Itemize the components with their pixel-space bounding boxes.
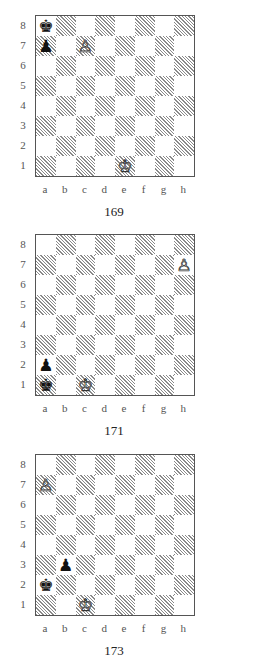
file-label: h — [173, 183, 193, 195]
black-king-icon: ♚ — [38, 18, 53, 35]
rank-labels: 87654321 — [16, 454, 30, 614]
square-d2 — [95, 575, 115, 595]
square-g8 — [155, 235, 175, 255]
rank-label: 1 — [16, 155, 30, 175]
square-a7: ♟ — [36, 36, 56, 56]
square-a3 — [36, 335, 56, 355]
square-f8 — [135, 235, 155, 255]
rank-label: 1 — [16, 374, 30, 394]
square-c8 — [76, 16, 96, 36]
square-a8 — [36, 235, 56, 255]
square-g8 — [155, 16, 175, 36]
square-h6 — [174, 495, 194, 515]
rank-label: 6 — [16, 494, 30, 514]
file-label: h — [173, 622, 193, 634]
diagram-169: 87654321 ♚♟♙♔ abcdefgh 169 — [0, 15, 268, 235]
file-labels: abcdefgh — [35, 402, 193, 414]
square-c6 — [76, 275, 96, 295]
square-a4 — [36, 96, 56, 116]
square-g7 — [155, 36, 175, 56]
square-f4 — [135, 96, 155, 116]
file-label: f — [134, 402, 154, 414]
diagram-number: 169 — [35, 204, 193, 220]
file-label: e — [114, 402, 134, 414]
square-b1 — [56, 156, 76, 176]
white-pawn-icon: ♙ — [78, 38, 93, 55]
square-f5 — [135, 295, 155, 315]
square-d7 — [95, 475, 115, 495]
square-e5 — [115, 76, 135, 96]
chess-board: ♙♟♚♔ — [35, 234, 195, 396]
diagram-171: 87654321 ♙♟♚♔ abcdefgh 171 — [0, 234, 268, 454]
rank-label: 8 — [16, 454, 30, 474]
file-label: b — [55, 183, 75, 195]
square-h5 — [174, 515, 194, 535]
square-h4 — [174, 315, 194, 335]
square-g5 — [155, 76, 175, 96]
square-d1 — [95, 375, 115, 395]
rank-label: 3 — [16, 554, 30, 574]
file-label: c — [75, 622, 95, 634]
file-label: g — [154, 402, 174, 414]
file-label: b — [55, 402, 75, 414]
rank-label: 2 — [16, 574, 30, 594]
square-f3 — [135, 335, 155, 355]
square-d4 — [95, 96, 115, 116]
square-h4 — [174, 96, 194, 116]
white-pawn-icon: ♙ — [38, 477, 53, 494]
rank-label: 2 — [16, 135, 30, 155]
square-b2 — [56, 355, 76, 375]
square-a4 — [36, 535, 56, 555]
square-e5 — [115, 295, 135, 315]
rank-label: 7 — [16, 474, 30, 494]
rank-label: 7 — [16, 35, 30, 55]
square-c2 — [76, 575, 96, 595]
square-a4 — [36, 315, 56, 335]
square-b5 — [56, 76, 76, 96]
square-f7 — [135, 36, 155, 56]
white-pawn-icon: ♙ — [177, 257, 192, 274]
square-b3 — [56, 116, 76, 136]
square-d3 — [95, 555, 115, 575]
square-b5 — [56, 515, 76, 535]
square-d2 — [95, 136, 115, 156]
square-a7: ♙ — [36, 475, 56, 495]
file-label: g — [154, 622, 174, 634]
square-d4 — [95, 535, 115, 555]
square-d8 — [95, 16, 115, 36]
square-d3 — [95, 335, 115, 355]
square-c4 — [76, 96, 96, 116]
black-pawn-icon: ♟ — [38, 38, 53, 55]
file-label: f — [134, 622, 154, 634]
rank-label: 7 — [16, 254, 30, 274]
square-g2 — [155, 575, 175, 595]
square-d3 — [95, 116, 115, 136]
square-e7 — [115, 255, 135, 275]
square-d6 — [95, 275, 115, 295]
square-a2: ♟ — [36, 355, 56, 375]
square-h6 — [174, 275, 194, 295]
square-h7 — [174, 475, 194, 495]
square-b3: ♟ — [56, 555, 76, 575]
square-f1 — [135, 595, 155, 615]
square-b7 — [56, 255, 76, 275]
diagram-number: 171 — [35, 423, 193, 439]
square-c7: ♙ — [76, 36, 96, 56]
rank-label: 1 — [16, 594, 30, 614]
square-b2 — [56, 136, 76, 156]
rank-label: 6 — [16, 55, 30, 75]
square-c3 — [76, 116, 96, 136]
square-b3 — [56, 335, 76, 355]
square-g4 — [155, 96, 175, 116]
square-e3 — [115, 116, 135, 136]
square-g7 — [155, 255, 175, 275]
square-d1 — [95, 156, 115, 176]
square-b7 — [56, 36, 76, 56]
square-b8 — [56, 16, 76, 36]
square-h7: ♙ — [174, 255, 194, 275]
file-label: d — [94, 183, 114, 195]
square-a3 — [36, 555, 56, 575]
square-h3 — [174, 555, 194, 575]
square-g7 — [155, 475, 175, 495]
square-f8 — [135, 16, 155, 36]
